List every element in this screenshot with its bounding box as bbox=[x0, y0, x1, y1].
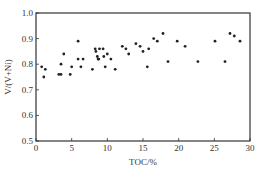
data-point bbox=[69, 73, 72, 76]
data-point bbox=[96, 55, 99, 58]
data-point bbox=[135, 42, 138, 45]
data-point bbox=[167, 60, 170, 63]
data-point bbox=[147, 47, 150, 50]
data-point bbox=[77, 40, 80, 43]
data-point bbox=[127, 53, 130, 56]
data-point bbox=[70, 65, 73, 68]
data-point bbox=[152, 37, 155, 40]
x-tick-label: 20 bbox=[174, 143, 184, 153]
x-tick-label: 0 bbox=[34, 143, 39, 153]
y-tick-label: 0.5 bbox=[22, 136, 34, 146]
data-point bbox=[82, 58, 85, 61]
data-point bbox=[214, 40, 217, 43]
data-point bbox=[91, 68, 94, 71]
data-point bbox=[94, 47, 97, 50]
data-point bbox=[176, 40, 179, 43]
plot-frame bbox=[36, 13, 250, 141]
x-axis-label: TOC/% bbox=[129, 157, 157, 167]
data-point bbox=[139, 45, 142, 48]
data-point bbox=[40, 65, 43, 68]
plot-border bbox=[36, 13, 250, 141]
data-point bbox=[233, 35, 236, 38]
data-point bbox=[125, 47, 128, 50]
y-tick-label: 0.8 bbox=[22, 59, 34, 69]
data-points bbox=[40, 32, 241, 78]
x-tick-label: 15 bbox=[139, 143, 149, 153]
data-point bbox=[60, 63, 63, 66]
x-tick-label: 10 bbox=[103, 143, 113, 153]
y-tick-label: 0.7 bbox=[22, 85, 34, 95]
data-point bbox=[44, 68, 47, 71]
y-tick-label: 1.0 bbox=[22, 8, 34, 18]
data-point bbox=[95, 50, 98, 53]
data-point bbox=[102, 55, 105, 58]
data-point bbox=[62, 53, 65, 56]
scatter-chart: 051015202530 0.50.60.70.80.91.0 TOC/% V/… bbox=[0, 0, 260, 170]
data-point bbox=[102, 47, 105, 50]
data-point bbox=[60, 73, 63, 76]
data-point bbox=[239, 40, 242, 43]
data-point bbox=[104, 65, 107, 68]
data-point bbox=[42, 76, 45, 79]
data-point bbox=[162, 32, 165, 35]
x-tick-label: 25 bbox=[210, 143, 220, 153]
data-point bbox=[114, 68, 117, 71]
x-axis: 051015202530 bbox=[34, 138, 255, 153]
data-point bbox=[197, 60, 200, 63]
data-point bbox=[146, 65, 149, 68]
data-point bbox=[142, 50, 145, 53]
data-point bbox=[184, 45, 187, 48]
y-tick-label: 0.9 bbox=[22, 34, 34, 44]
x-tick-label: 5 bbox=[69, 143, 74, 153]
data-point bbox=[106, 53, 109, 56]
data-point bbox=[98, 47, 101, 50]
data-point bbox=[97, 58, 100, 61]
data-point bbox=[110, 58, 113, 61]
y-tick-label: 0.6 bbox=[22, 110, 34, 120]
x-tick-label: 30 bbox=[246, 143, 256, 153]
data-point bbox=[156, 40, 159, 43]
data-point bbox=[77, 58, 80, 61]
data-point bbox=[121, 45, 124, 48]
data-point bbox=[229, 32, 232, 35]
data-point bbox=[80, 65, 83, 68]
y-axis-label: V/(V+Ni) bbox=[3, 59, 13, 95]
data-point bbox=[224, 60, 227, 63]
